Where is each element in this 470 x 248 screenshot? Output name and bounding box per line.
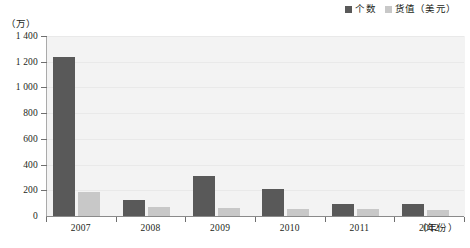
bar-个数-2007[interactable]: [53, 57, 75, 216]
x-axis-tick: [255, 217, 256, 222]
bar-货值（美元）-2012[interactable]: [427, 210, 449, 216]
bar-货值（美元）-2010[interactable]: [287, 209, 309, 216]
y-axis-label: 1 200: [0, 57, 38, 67]
legend-item-count[interactable]: 个数: [345, 5, 375, 15]
y-axis-label: 200: [0, 186, 38, 196]
legend-swatch-count: [345, 6, 352, 13]
y-axis-label: 400: [0, 160, 38, 170]
y-axis-label: 0: [0, 212, 38, 222]
bar-个数-2008[interactable]: [123, 200, 145, 216]
bar-个数-2011[interactable]: [332, 204, 354, 216]
bar-货值（美元）-2009[interactable]: [218, 208, 240, 216]
bar-个数-2012[interactable]: [402, 204, 424, 216]
x-axis-tick: [185, 217, 186, 222]
x-axis-label-2009: 2009: [190, 224, 250, 234]
y-axis-label: 600: [0, 134, 38, 144]
y-axis-label: 1 000: [0, 83, 38, 93]
chart-legend: 个数 货值（美元）: [345, 5, 456, 15]
y-axis-label: 1 400: [0, 32, 38, 42]
bar-货值（美元）-2011[interactable]: [357, 209, 379, 216]
x-axis-label-2010: 2010: [260, 224, 320, 234]
bar-个数-2010[interactable]: [262, 189, 284, 216]
x-axis-title: （年份）: [417, 224, 458, 234]
legend-label-value-usd: 货值（美元）: [395, 5, 456, 15]
x-axis-tick: [464, 217, 465, 222]
legend-label-count: 个数: [355, 5, 375, 15]
x-axis-label-2007: 2007: [51, 224, 111, 234]
y-axis-label: 800: [0, 109, 38, 119]
bar-货值（美元）-2008[interactable]: [148, 207, 170, 216]
x-axis-tick: [46, 217, 47, 222]
y-axis-unit-label: （万）: [6, 16, 37, 30]
bar-chart: 个数 货值（美元） （万） 02004006008001 0001 2001 4…: [0, 0, 470, 248]
legend-swatch-value-usd: [385, 6, 392, 13]
x-axis-label-2008: 2008: [121, 224, 181, 234]
bar-个数-2009[interactable]: [193, 176, 215, 216]
bars-layer: [46, 36, 464, 216]
x-axis-label-2011: 2011: [330, 224, 390, 234]
x-axis-tick: [116, 217, 117, 222]
legend-item-value-usd[interactable]: 货值（美元）: [385, 5, 456, 15]
x-axis-tick: [325, 217, 326, 222]
x-axis-tick: [394, 217, 395, 222]
bar-货值（美元）-2007[interactable]: [78, 192, 100, 216]
